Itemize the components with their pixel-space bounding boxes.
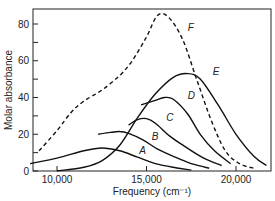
y-tick-label: 60 — [18, 55, 30, 66]
curve-label-c: C — [166, 112, 174, 123]
y-axis-label: Molar absorbance — [3, 50, 14, 130]
curve-label-f: F — [188, 22, 195, 33]
y-tick-label: 0 — [23, 166, 29, 177]
x-tick-label: 10,000 — [42, 174, 73, 185]
curve-a — [30, 148, 191, 170]
y-tick-label: 20 — [18, 129, 30, 140]
curve-label-d: D — [188, 90, 195, 101]
y-tick-label: 80 — [18, 19, 30, 30]
curve-e — [57, 74, 266, 171]
x-tick-label: 20,000 — [221, 174, 252, 185]
y-tick-label: 40 — [18, 92, 30, 103]
curves — [30, 13, 266, 171]
curve-f — [39, 13, 254, 168]
y-axis-ticks: 020406080 — [18, 19, 38, 177]
curve-label-b: B — [152, 131, 159, 142]
plot-frame — [33, 9, 271, 171]
x-tick-label: 15,000 — [131, 174, 162, 185]
curve-label-a: A — [138, 145, 146, 156]
x-axis-label: Frequency (cm⁻¹) — [113, 186, 191, 197]
curve-label-e: E — [213, 66, 220, 77]
absorbance-chart: 020406080 10,00015,00020,000 ABCDEF Freq… — [0, 0, 275, 201]
